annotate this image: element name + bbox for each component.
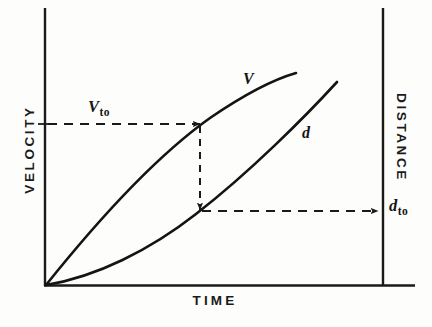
- velocity-curve: [46, 73, 296, 285]
- distance-curve-label: d: [302, 124, 310, 142]
- diagram-canvas: [0, 0, 432, 327]
- velocity-axis-label: VELOCITY: [22, 90, 37, 210]
- dto-label: dto: [389, 196, 407, 216]
- time-axis-label: TIME: [140, 293, 290, 308]
- vto-label-subscript: to: [100, 106, 110, 118]
- velocity-curve-label: V: [243, 70, 254, 88]
- vto-label: Vto: [88, 97, 109, 117]
- distance-axis-label: DISTANCE: [394, 78, 409, 198]
- vto-label-base: V: [88, 97, 99, 116]
- dto-label-subscript: to: [398, 205, 408, 217]
- dto-label-base: d: [389, 196, 397, 215]
